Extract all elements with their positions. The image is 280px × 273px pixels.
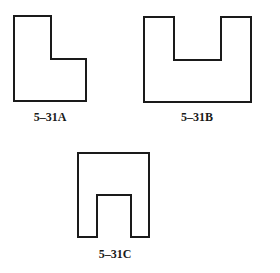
figure-5-31c-arch-shape	[78, 153, 149, 237]
figure-canvas	[0, 0, 280, 273]
figure-5-31a-l-shape	[14, 16, 86, 101]
figure-label-5-31a: 5–31A	[34, 110, 67, 125]
figure-5-31b-u-shape	[144, 17, 251, 102]
figure-label-5-31b: 5–31B	[181, 110, 213, 125]
figure-label-5-31c: 5–31C	[99, 247, 132, 262]
